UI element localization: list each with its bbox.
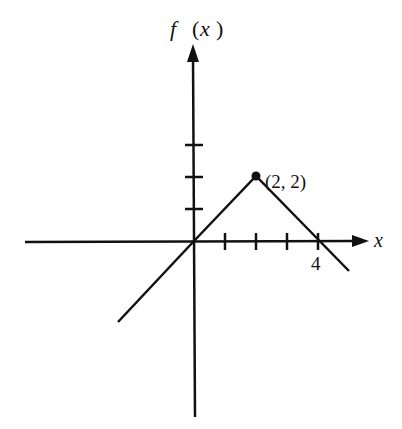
- point-marker: [252, 172, 261, 181]
- function-line: [118, 176, 349, 322]
- y-axis-label-x: x: [199, 16, 210, 41]
- point-label: (2, 2): [265, 171, 306, 193]
- y-axis: [193, 56, 195, 417]
- x-axis-arrow-icon: [352, 235, 369, 247]
- x-tick-label-4: 4: [311, 253, 321, 274]
- y-axis-label-f: f: [170, 16, 179, 41]
- y-axis-label-close: ): [216, 16, 223, 41]
- function-graph: (2, 2) x 4 f ( x ): [0, 0, 402, 429]
- x-axis-label: x: [373, 229, 383, 251]
- y-axis-arrow-icon: [187, 44, 199, 62]
- y-axis-label-open: (: [192, 16, 199, 41]
